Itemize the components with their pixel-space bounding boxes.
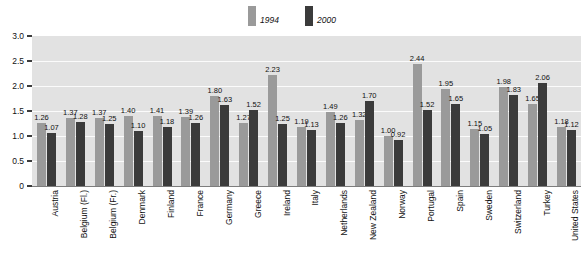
- x-axis-cell: Belgium (Fl.): [61, 190, 90, 266]
- bar-rect: [249, 110, 258, 186]
- bar-rect: [413, 64, 422, 186]
- x-axis-cell: Turkey: [523, 190, 552, 266]
- bar-groups: 1.261.071.371.281.371.251.401.101.411.18…: [32, 36, 581, 186]
- bar-group: 1.000.92: [379, 36, 408, 186]
- x-axis-label: Greece: [253, 190, 262, 218]
- legend-swatch-2000: [305, 6, 313, 26]
- bar-rect: [451, 104, 460, 187]
- x-axis-label: Spain: [455, 190, 464, 212]
- bar-value-label: 1.13: [304, 121, 319, 129]
- x-axis-label: Ireland: [282, 190, 291, 216]
- x-axis-baseline: [32, 186, 581, 187]
- x-axis-label: Austria: [51, 190, 60, 216]
- bar-rect: [134, 131, 143, 186]
- bar-rect: [480, 134, 489, 187]
- x-axis-label: Germany: [224, 190, 233, 225]
- bar-rect: [394, 140, 403, 186]
- bar-2000: 1.65: [451, 36, 460, 186]
- bar-2000: 1.12: [567, 36, 576, 186]
- bar-rect: [509, 95, 518, 187]
- legend-entry-2000: 2000: [305, 6, 336, 26]
- y-axis: 00.51.01.52.02.53.0: [0, 36, 32, 187]
- bar-rect: [220, 105, 229, 187]
- x-axis-cell: Italy: [292, 190, 321, 266]
- x-axis-cell: Switzerland: [494, 190, 523, 266]
- bar-value-label: 1.52: [246, 101, 261, 109]
- bar-1994: 2.44: [413, 36, 422, 186]
- bar-1994: 1.49: [326, 36, 335, 186]
- x-axis-label: Belgium (Fl.): [80, 190, 89, 238]
- bar-1994: 1.32: [355, 36, 364, 186]
- bar-rect: [326, 112, 335, 187]
- bar-2000: 1.63: [220, 36, 229, 186]
- bar-rect: [268, 75, 277, 187]
- bar-rect: [365, 101, 374, 186]
- bar-rect: [153, 116, 162, 187]
- x-axis-label: New Zealand: [369, 190, 378, 240]
- bar-1994: 1.40: [124, 36, 133, 186]
- bar-2000: 1.70: [365, 36, 374, 186]
- bar-rect: [423, 110, 432, 186]
- bar-1994: 2.23: [268, 36, 277, 186]
- x-axis-label: Turkey: [542, 190, 551, 216]
- bar-value-label: 1.26: [333, 114, 348, 122]
- bar-rect: [557, 127, 566, 186]
- x-axis-cell: Greece: [234, 190, 263, 266]
- bar-2000: 1.13: [307, 36, 316, 186]
- bar-1994: 1.26: [37, 36, 46, 186]
- x-axis-cell: Ireland: [263, 190, 292, 266]
- bar-2000: 1.07: [47, 36, 56, 186]
- bar-2000: 1.05: [480, 36, 489, 186]
- x-axis-cell: Belgium (Fr.): [90, 190, 119, 266]
- bar-group: 1.401.10: [119, 36, 148, 186]
- y-tick-label: 0.5: [12, 157, 24, 166]
- bar-2000: 1.26: [191, 36, 200, 186]
- bar-2000: 1.18: [163, 36, 172, 186]
- bar-group: 1.652.06: [523, 36, 552, 186]
- x-axis-label: France: [195, 190, 204, 216]
- x-axis-cell: Norway: [379, 190, 408, 266]
- bar-2000: 0.92: [394, 36, 403, 186]
- bar-rect: [95, 118, 104, 187]
- bar-rect: [567, 130, 576, 186]
- legend-label-2000: 2000: [317, 15, 336, 26]
- legend-label-1994: 1994: [260, 15, 279, 26]
- bar-1994: 1.00: [384, 36, 393, 186]
- bar-group: 1.371.28: [61, 36, 90, 186]
- bar-1994: 1.18: [557, 36, 566, 186]
- bar-value-label: 1.28: [73, 113, 88, 121]
- bar-group: 1.151.05: [465, 36, 494, 186]
- bar-2000: 1.10: [134, 36, 143, 186]
- bar-2000: 1.26: [336, 36, 345, 186]
- chart-legend: 19942000: [0, 3, 584, 29]
- bar-rect: [355, 120, 364, 186]
- bar-1994: 1.27: [239, 36, 248, 186]
- x-axis-label: Portugal: [427, 190, 436, 222]
- legend-entry-1994: 1994: [248, 6, 279, 26]
- bar-2000: 1.52: [423, 36, 432, 186]
- bar-rect: [307, 130, 316, 187]
- x-axis-labels: AustriaBelgium (Fl.)Belgium (Fr.)Denmark…: [32, 190, 581, 266]
- bar-rect: [47, 133, 56, 187]
- x-axis-cell: New Zealand: [350, 190, 379, 266]
- bar-group: 1.391.26: [176, 36, 205, 186]
- bar-rect: [297, 127, 306, 187]
- bar-rect: [336, 123, 345, 186]
- bar-value-label: 1.07: [44, 124, 59, 132]
- bar-rect: [37, 123, 46, 186]
- x-axis-label: Italy: [311, 190, 320, 206]
- bar-2000: 1.25: [105, 36, 114, 186]
- bar-group: 1.321.70: [350, 36, 379, 186]
- bar-rect: [66, 118, 75, 187]
- bar-group: 2.441.52: [408, 36, 437, 186]
- x-axis-label: Belgium (Fr.): [109, 190, 118, 239]
- bar-value-label: 0.92: [391, 131, 406, 139]
- x-axis-label: Netherlands: [340, 190, 349, 236]
- x-axis-label: Denmark: [138, 190, 147, 224]
- bar-value-label: 1.26: [189, 114, 204, 122]
- bar-value-label: 1.10: [131, 122, 146, 130]
- bar-1994: 1.98: [499, 36, 508, 186]
- x-axis-label: United States: [571, 190, 580, 241]
- bar-value-label: 1.25: [102, 115, 117, 123]
- bar-2000: 1.28: [76, 36, 85, 186]
